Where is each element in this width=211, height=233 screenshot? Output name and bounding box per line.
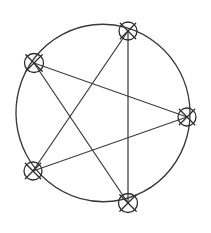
vertex-marker-upper-left bbox=[25, 54, 44, 73]
pentagram-diagram bbox=[0, 0, 211, 233]
vertex-marker-top bbox=[119, 22, 137, 40]
chord-top-to-lower-left bbox=[33, 31, 128, 171]
vertex-marker-lower-left bbox=[24, 162, 42, 180]
circle-layer bbox=[7, 16, 199, 211]
main-circle-outline bbox=[7, 16, 199, 211]
chord-right-to-upper-left bbox=[34, 63, 187, 117]
chord-lower-left-to-right bbox=[33, 117, 187, 171]
vertex-marker-bottom bbox=[119, 194, 138, 213]
vertex-marker-layer bbox=[24, 22, 196, 213]
diagram-canvas bbox=[0, 0, 211, 233]
vertex-marker-right bbox=[178, 108, 196, 126]
